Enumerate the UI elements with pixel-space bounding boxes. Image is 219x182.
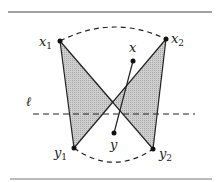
label-y: y (109, 137, 118, 152)
point-x2 (164, 37, 169, 42)
point-y2 (151, 147, 156, 152)
point-x (131, 59, 136, 64)
label-l: ℓ (26, 94, 32, 109)
label-x2: x2 (171, 31, 184, 48)
label-y2: y2 (158, 146, 172, 163)
label-y1: y1 (53, 145, 67, 162)
point-y (112, 131, 117, 136)
point-y1 (72, 146, 77, 151)
right-shaded-triangle (114, 39, 166, 149)
dashed-arc-top (60, 27, 166, 41)
point-x1 (58, 39, 63, 44)
diagram-canvas: x1 x2 y1 y2 x y ℓ (0, 0, 219, 182)
label-x: x (129, 40, 137, 55)
label-x1: x1 (39, 34, 52, 51)
